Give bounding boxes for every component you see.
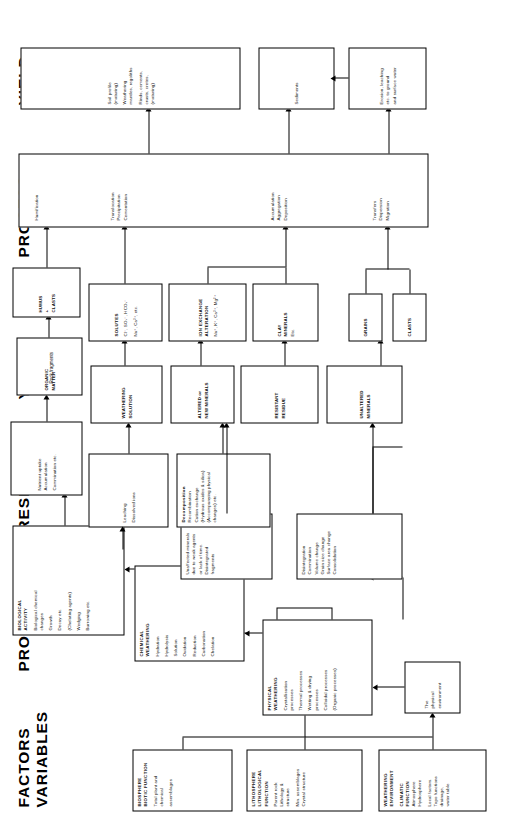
weathering-flow-diagram: FACTORS VARIABLES PROCESS RESPONSE YIELD… [0,0,519,827]
box-line: The [423,665,429,708]
box-line: Recombination [186,457,192,522]
connector [304,736,432,737]
box-line: Min. assemblages [294,753,300,806]
box-line: Accumulation [269,192,275,220]
box-grains: GRAINS [348,293,382,341]
box-line: Parent rock [272,753,278,806]
arrow-icon [124,566,129,572]
box-line: Soil profile [106,51,112,104]
box-line: Oxidation [181,569,187,656]
connector [207,267,208,283]
box-line: and surface water [391,51,397,104]
box-line: RESIDUE [280,369,286,418]
box-title: CHEMICAL WEATHERING [138,569,151,656]
box-line: Wetting & drying [306,623,312,710]
connector [207,266,285,267]
box-line: Reduction [191,569,197,656]
box-line: assemblages [167,753,173,806]
box-line: (maturing) [112,51,118,104]
box-line: (maturing) [149,51,155,104]
connector [46,227,47,267]
connector [285,267,286,283]
connector [148,109,149,153]
connector [402,577,403,619]
box-line: Colloidal processes [322,623,328,710]
box-line: Consolidation [331,517,337,574]
box-line: (Hydrous oxides & silica) [199,457,205,522]
box-line: Burrowing etc. [84,529,90,630]
box-line: physical [429,665,435,708]
box-line: MINERALS [282,287,288,336]
box-line: Deposition [282,192,288,220]
box-biological-activity: BIOLOGICAL ACTIVITY Biological chemical … [12,525,124,635]
box-line: Dissolved ions [130,457,136,522]
box-line: Hydration [154,569,160,656]
box-line: Local factors. [426,753,432,806]
box-altered-new-minerals: ALTERED or NEW MINERALS [170,365,234,423]
box-line: NEW MINERALS [203,369,209,418]
box-line: Cation exchange [193,457,199,522]
box-line: Na⁺, K⁺, Ca²⁺, Mg²⁺ [212,287,218,336]
box-line: Atmosphere [410,753,416,806]
column-header-factors-variables: FACTORS VARIABLES [14,710,50,807]
box-line: (Chelating agents) [66,529,72,630]
connector [334,77,348,78]
box-line: Nutrient uptake [36,425,42,490]
box-physical-environment: The physical environment [404,661,460,713]
connector [284,341,285,365]
box-line: Comminution [306,517,312,574]
connector [46,397,47,421]
connector [376,686,404,687]
connector [226,425,227,513]
box-clasts: CLASTS [392,293,426,341]
box-line: Decay etc. [56,529,62,630]
box-line: Translocation [109,192,115,220]
box-title: WEATHERING ENVIRONMENT [382,753,395,806]
connector [124,227,125,283]
box-clay-minerals: CLAY MINERALS Etc. [252,283,318,341]
box-line: Leaching [121,457,127,522]
box-solutes: SOLUTES Cl⁻, SO₄⁻, HCO₃⁻ Na⁺, Ca²⁺, etc. [88,283,162,341]
box-title: ION EXCHANGE ALTERATION [197,287,210,336]
box-line: Etc. [289,287,295,336]
box-title: LITHOSPHERE LITHOLOGICAL FUNCTION [250,753,269,806]
box-line: Comminution etc. [51,425,57,490]
box-line: (Accompanying physical [205,457,211,522]
box-line: Total plant and [152,753,158,806]
box-transport-process: Transfers Dispersion Migration Accumulat… [18,153,428,227]
box-title: BIOLOGICAL ACTIVITY [16,529,29,630]
box-line: Hydrolysis [163,569,169,656]
arrow-icon [372,684,377,690]
box-line: Thermal processes [297,623,303,710]
box-line: Hydrosphere [416,753,422,806]
box-line: Solution [172,569,178,656]
box-line: Chelation [209,569,215,656]
box-line: chemical [158,753,164,806]
connector [222,425,223,453]
box-line: Disintegration [300,517,306,574]
box-line: changes [38,529,44,630]
box-line: MINERALS [365,369,371,418]
box-chemical-response: Decomposition Recombination Cation excha… [176,453,270,527]
connector [124,341,125,365]
box-sediments: Sediments [258,47,334,109]
box-resistant-residue: RESISTANT RESIDUE [240,365,318,423]
connector [285,227,286,267]
box-weathering-environment-climatic: WEATHERING ENVIRONMENT CLIMATIC FUNCTION… [378,749,486,811]
arrow-icon [119,526,125,531]
box-line: Dispersion [377,198,383,220]
box-ion-exchange-alteration: ION EXCHANGE ALTERATION Na⁺, K⁺, Ca²⁺, M… [168,283,246,341]
box-line: processes [288,623,294,710]
box-line: Biological chemical [32,529,38,630]
box-line: Crystallisation [282,623,288,710]
box-humus-clasts: HUMUS + CLASTS [12,267,80,317]
box-line: Precipitation [115,192,121,220]
box-title: Decomposition [180,457,186,522]
box-unaltered-minerals: UNALTERED MINERALS [326,365,402,423]
box-line: Cementation [122,192,128,220]
box-line: Rinds, cements, [137,51,143,104]
box-line: water table [444,753,450,806]
connector [365,269,366,293]
box-line: (Organic processes) [331,623,337,710]
box-line: mantles, regoliths [127,51,133,104]
